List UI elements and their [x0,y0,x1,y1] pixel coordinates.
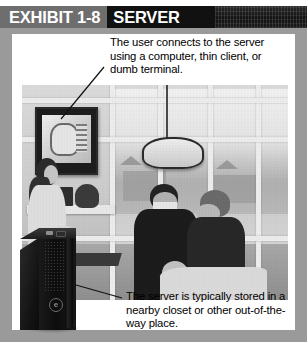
window-mullion [110,85,115,300]
photo-credit-text: Photo credit: reproduced with permission [130,6,305,14]
screen-image [50,123,80,157]
window-transom [22,98,288,103]
exhibit-header: EXHIBIT 1-8 SERVER Photo credit: reprodu… [0,6,307,28]
tower-vent-mesh [44,241,66,293]
tower-bezel [67,238,73,328]
dental-light-arm [166,85,169,141]
tower-brand-badge: e [49,298,63,312]
server-tower-image: e [20,228,76,330]
callout-text-bottom: The server is typically stored in a near… [126,290,292,331]
exhibit-number-label: EXHIBIT 1-8 [9,9,100,26]
dental-light [142,137,205,169]
callout-text-top: The user connects to the server using a … [110,36,290,77]
monitor-screen [42,115,91,163]
exhibit-number-band: EXHIBIT 1-8 [0,6,107,28]
usb-port-icon [56,231,66,237]
exhibit-title-band: SERVER Photo credit: reproduced with per… [107,6,307,28]
photo-roof [216,160,238,169]
exhibit-figure: EXHIBIT 1-8 SERVER Photo credit: reprodu… [0,0,307,348]
power-button-icon [46,231,53,235]
photo-roof [120,156,142,165]
photo-instruments [75,184,99,208]
screen-menu [76,124,87,153]
tower-side-panel [20,237,40,330]
